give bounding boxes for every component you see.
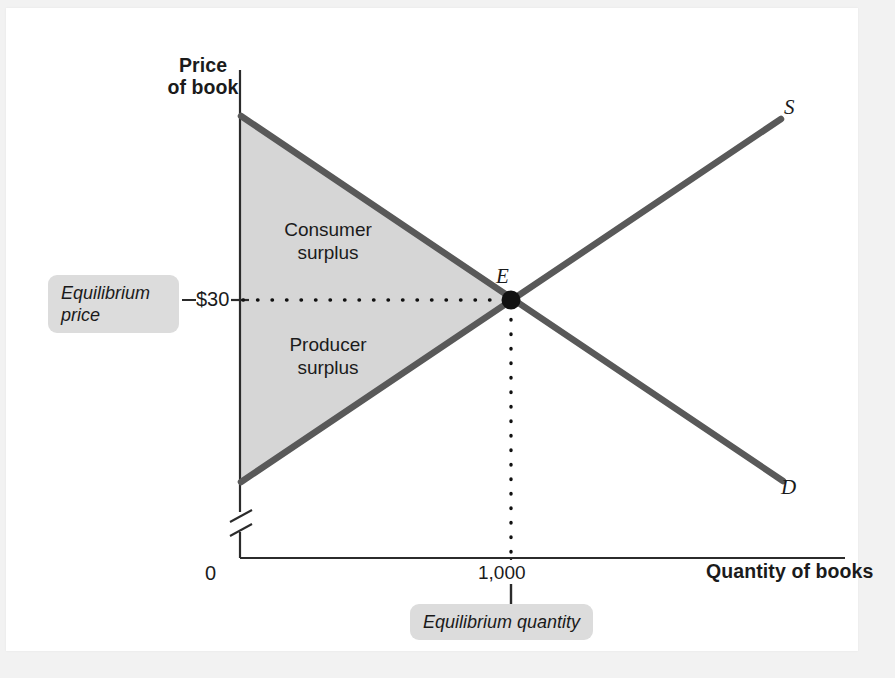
demand-curve-label: D bbox=[781, 475, 796, 500]
y-axis-title-line1: Price bbox=[160, 54, 246, 76]
producer-surplus-label: Producer surplus bbox=[253, 333, 403, 379]
scan-background: Price of book Quantity of books $30 0 1,… bbox=[0, 0, 895, 678]
producer-surplus-line1: Producer bbox=[253, 333, 403, 356]
supply-curve-label: S bbox=[784, 95, 795, 120]
x-axis-tick-label: 1,000 bbox=[478, 562, 526, 584]
y-axis-title: Price of book bbox=[160, 54, 246, 98]
surplus-region-shading bbox=[241, 116, 511, 482]
x-axis-title: Quantity of books bbox=[706, 560, 873, 582]
origin-label: 0 bbox=[205, 562, 216, 585]
producer-surplus-line2: surplus bbox=[253, 356, 403, 379]
consumer-surplus-line1: Consumer bbox=[253, 218, 403, 241]
equilibrium-point-marker[interactable] bbox=[502, 291, 521, 310]
y-axis-title-line2: of book bbox=[160, 76, 246, 98]
consumer-surplus-line2: surplus bbox=[253, 241, 403, 264]
supply-demand-figure: Price of book Quantity of books $30 0 1,… bbox=[0, 0, 895, 678]
equilibrium-price-callout-line1: Equilibrium bbox=[61, 282, 166, 304]
equilibrium-point-label: E bbox=[496, 264, 509, 289]
equilibrium-price-callout-line2: price bbox=[61, 304, 166, 326]
consumer-surplus-label: Consumer surplus bbox=[253, 218, 403, 264]
equilibrium-price-callout: Equilibrium price bbox=[48, 275, 179, 333]
y-axis-tick-label: $30 bbox=[196, 288, 229, 311]
equilibrium-quantity-callout: Equilibrium quantity bbox=[410, 604, 593, 640]
